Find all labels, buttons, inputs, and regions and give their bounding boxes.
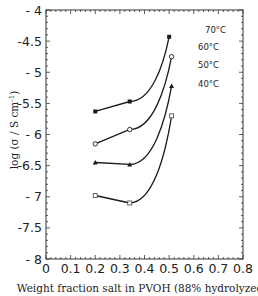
series-label: 60°C xyxy=(198,42,219,52)
y-tick-label: -7.5 xyxy=(18,220,42,235)
x-tick-label: 0.5 xyxy=(159,261,179,276)
data-point-marker xyxy=(128,100,132,104)
x-tick-label: 0 xyxy=(42,261,50,276)
data-point-marker xyxy=(93,142,97,146)
y-axis-tick-labels: - 4-4.5- 5-5.5- 6-6.5- 7-7.5- 8 xyxy=(18,3,42,267)
conductivity-chart: - 4-4.5- 5-5.5- 6-6.5- 7-7.5- 8 00.10.20… xyxy=(0,0,258,296)
data-point-marker xyxy=(128,201,132,205)
data-point-marker xyxy=(169,83,174,88)
y-tick-label: -4.5 xyxy=(18,34,42,49)
data-point-marker xyxy=(93,109,97,113)
series-50c: 50°C xyxy=(93,60,219,166)
x-axis-tick-labels: 00.10.20.30.40.50.60.70.8 xyxy=(42,261,253,276)
x-tick-label: 0.8 xyxy=(233,261,253,276)
y-tick-label: - 8 xyxy=(26,252,42,267)
x-tick-label: 0.2 xyxy=(85,261,105,276)
series-60c: 60°C xyxy=(93,42,219,146)
data-point-marker xyxy=(169,54,173,58)
y-tick-label: -5.5 xyxy=(18,96,42,111)
y-tick-label: - 6 xyxy=(26,127,42,142)
data-point-marker xyxy=(167,35,171,39)
x-axis-title: Weight fraction salt in PVOH (88% hydrol… xyxy=(17,282,258,294)
x-tick-label: 0.6 xyxy=(184,261,204,276)
y-tick-label: - 5 xyxy=(26,65,42,80)
series-label: 40°C xyxy=(198,79,219,89)
data-point-marker xyxy=(128,127,132,131)
x-tick-label: 0.7 xyxy=(208,261,228,276)
x-tick-label: 0.4 xyxy=(135,261,155,276)
series-label: 70°C xyxy=(205,25,226,35)
series-40c: 40°C xyxy=(93,79,219,205)
y-tick-label: -6.5 xyxy=(18,158,42,173)
series-label: 50°C xyxy=(198,60,219,70)
x-tick-label: 0.1 xyxy=(61,261,81,276)
data-point-marker xyxy=(170,114,174,118)
y-tick-label: - 4 xyxy=(26,3,42,18)
x-tick-label: 0.3 xyxy=(110,261,130,276)
data-series: 70°C60°C50°C40°C xyxy=(93,25,226,205)
y-tick-label: - 7 xyxy=(26,189,42,204)
data-point-marker xyxy=(93,194,97,198)
y-axis-title: log (σ / S cm-1) xyxy=(8,91,20,170)
